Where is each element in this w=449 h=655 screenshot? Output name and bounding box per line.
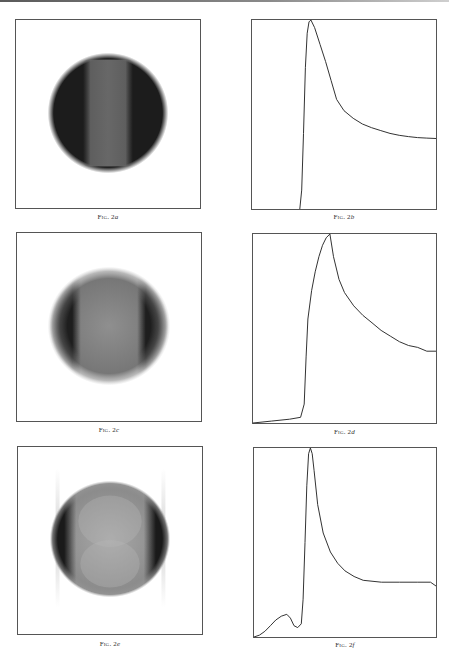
caption-prefix: Fig. 2 — [335, 641, 352, 649]
figure-2f-caption: Fig. 2f — [253, 641, 437, 649]
figure-2f-curve — [254, 448, 436, 637]
figure-2a-panel — [15, 19, 201, 209]
figure-2e-panel — [17, 446, 203, 635]
figure-2d-line-chart — [253, 234, 438, 425]
caption-label: a — [115, 213, 119, 221]
figure-2f-panel — [253, 447, 437, 638]
figure-2c-panel — [16, 232, 202, 422]
figure-2c-caption: Fig. 2c — [16, 426, 202, 434]
figure-2e-disc-image — [18, 447, 202, 634]
figure-2d-curve — [253, 234, 436, 423]
caption-prefix: Fig. 2 — [334, 428, 351, 436]
page-top-rule — [0, 0, 449, 2]
caption-label: b — [351, 213, 355, 221]
figure-2a-caption: Fig. 2a — [15, 213, 201, 221]
figure-2b-curve — [300, 20, 436, 209]
caption-prefix: Fig. 2 — [100, 640, 117, 648]
caption-label: d — [351, 428, 355, 436]
figure-2b-line-chart — [252, 20, 438, 211]
caption-prefix: Fig. 2 — [99, 426, 116, 434]
caption-label: e — [117, 640, 120, 648]
figure-2e-caption: Fig. 2e — [17, 640, 203, 648]
figure-2f-line-chart — [254, 448, 438, 639]
figure-2c-disc-image — [17, 233, 201, 421]
caption-label: f — [353, 641, 355, 649]
figure-2d-panel — [252, 233, 437, 424]
figure-2a-disc-image — [16, 20, 200, 208]
figure-2d-caption: Fig. 2d — [252, 428, 437, 436]
figure-2b-caption: Fig. 2b — [251, 213, 437, 221]
caption-label: c — [116, 426, 119, 434]
caption-prefix: Fig. 2 — [333, 213, 350, 221]
caption-prefix: Fig. 2 — [97, 213, 114, 221]
figure-2b-panel — [251, 19, 437, 210]
